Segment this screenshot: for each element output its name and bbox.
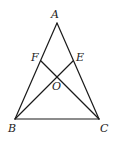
label-f: F: [30, 51, 39, 64]
label-c: C: [100, 122, 109, 135]
label-b: B: [7, 122, 16, 135]
segment-cf: [41, 61, 99, 119]
segment-be: [15, 61, 73, 119]
label-o: O: [52, 80, 61, 93]
label-a: A: [50, 8, 59, 21]
triangle-diagram: A B C E F O: [0, 0, 114, 141]
label-e: E: [75, 51, 84, 64]
